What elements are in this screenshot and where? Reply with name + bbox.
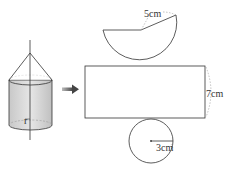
arrow-right-icon xyxy=(62,85,79,95)
base-circle: 3cm xyxy=(129,119,173,163)
cone-cylinder-solid: r xyxy=(9,40,52,140)
diagram: r 5cm 7cm 3cm xyxy=(0,0,229,169)
cylinder-rectangle: 7cm xyxy=(85,66,223,118)
radius-label: 3cm xyxy=(156,142,173,153)
cone-sector: 5cm xyxy=(103,8,177,60)
slant-label: 5cm xyxy=(144,8,161,19)
height-label: 7cm xyxy=(206,88,223,99)
